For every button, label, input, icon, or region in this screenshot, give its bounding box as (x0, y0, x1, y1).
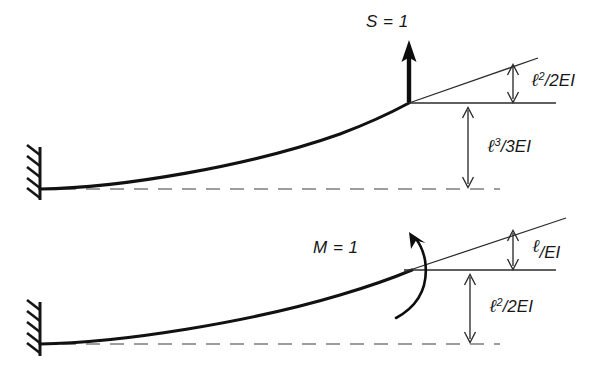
rotation-label-upper: ℓ2/2EI (531, 69, 575, 90)
fixed-support-icon-lower (27, 300, 40, 356)
deflection-label-upper: ℓ3/3EI (487, 135, 531, 156)
fixed-support-icon-upper (27, 145, 40, 200)
deflection-label-lower: ℓ2/2EI (489, 295, 533, 316)
cantilever-deflection-diagram: S = 1 ℓ2/2EI ℓ3/3EI (0, 0, 604, 385)
deflection-dimension-lower (465, 275, 476, 343)
rotation-label-lower: ℓ/EI (532, 235, 561, 262)
diagram-canvas: S = 1 ℓ2/2EI ℓ3/3EI (0, 0, 604, 385)
load-label-upper: S = 1 (366, 12, 409, 31)
deflected-beam-curve-upper (40, 103, 409, 189)
deflected-beam-curve-lower (40, 270, 412, 344)
unit-load-arrow-upper (402, 40, 417, 102)
load-label-lower: M = 1 (313, 238, 359, 257)
deflection-dimension-upper (463, 108, 474, 188)
tangent-line-upper (409, 58, 538, 103)
unit-moment-panel: M = 1 ℓ/EI ℓ2/2EI (27, 218, 566, 356)
unit-shear-panel: S = 1 ℓ2/2EI ℓ3/3EI (27, 12, 575, 200)
rotation-dimension-upper (508, 65, 519, 103)
